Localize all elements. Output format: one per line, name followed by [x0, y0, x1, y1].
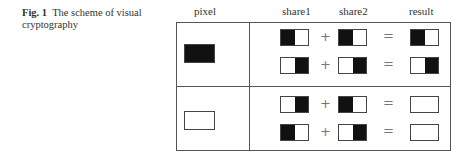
share2-square: [338, 96, 367, 113]
header-result: result: [409, 5, 433, 17]
share2-square: [338, 124, 367, 141]
pixel-white: [184, 111, 215, 130]
figure-label: Fig. 1: [22, 7, 47, 18]
share1-square: [280, 29, 309, 46]
share1-square: [280, 57, 309, 74]
share2-square: [338, 29, 367, 46]
result-square: [410, 29, 439, 46]
equals-sign: =: [383, 56, 394, 71]
share1-square: [280, 96, 309, 113]
header-pixel: pixel: [194, 5, 216, 17]
pixel-black: [184, 44, 215, 63]
equals-sign: =: [383, 123, 394, 138]
equals-sign: =: [383, 95, 394, 110]
plus-sign: +: [320, 57, 331, 72]
share2-square: [338, 57, 367, 74]
share1-square: [280, 124, 309, 141]
equals-sign: =: [383, 28, 394, 43]
figure-caption: Fig. 1 The scheme of visual cryptography: [22, 7, 172, 31]
column-divider: [249, 22, 250, 151]
header-share1: share1: [282, 5, 311, 17]
plus-sign: +: [320, 124, 331, 139]
result-square: [410, 124, 439, 141]
header-share2: share2: [339, 5, 368, 17]
result-square: [410, 57, 439, 74]
plus-sign: +: [320, 96, 331, 111]
result-square: [410, 96, 439, 113]
row-divider: [176, 86, 451, 87]
plus-sign: +: [320, 29, 331, 44]
